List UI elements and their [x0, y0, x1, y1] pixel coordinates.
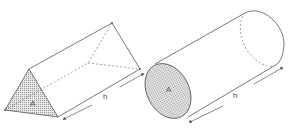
cylinder: A h — [136, 11, 284, 127]
prism-vertex — [139, 68, 141, 70]
prism-height-arrow-upper — [120, 74, 143, 87]
diagram-canvas: A h A h — [0, 0, 291, 128]
prism-base-label: A — [30, 99, 36, 108]
cylinder-back-visible-arc — [245, 11, 284, 66]
prism-bottom-edge — [58, 69, 140, 117]
prism-back-right-edge — [112, 23, 140, 69]
prism-base-face — [5, 69, 58, 117]
cylinder-back-hidden-arc — [240, 13, 274, 66]
cylinder-height-arrow-lower — [190, 106, 223, 122]
prism-height-label: h — [103, 92, 107, 101]
cylinder-height-label: h — [233, 91, 237, 100]
cylinder-height-arrow-upper — [254, 68, 282, 84]
prism-vertex — [111, 22, 113, 24]
prism-vertex — [4, 109, 6, 111]
prism-height-arrow-lower — [64, 105, 92, 119]
prism-hidden-back-bottom — [88, 63, 140, 69]
triangular-prism: A h — [4, 22, 143, 119]
cylinder-top-line — [155, 13, 245, 64]
prism-top-edge — [29, 23, 112, 69]
prism-hidden-back-left — [88, 23, 112, 63]
cylinder-base-label: A — [166, 85, 172, 94]
cylinder-bottom-line — [188, 66, 274, 117]
